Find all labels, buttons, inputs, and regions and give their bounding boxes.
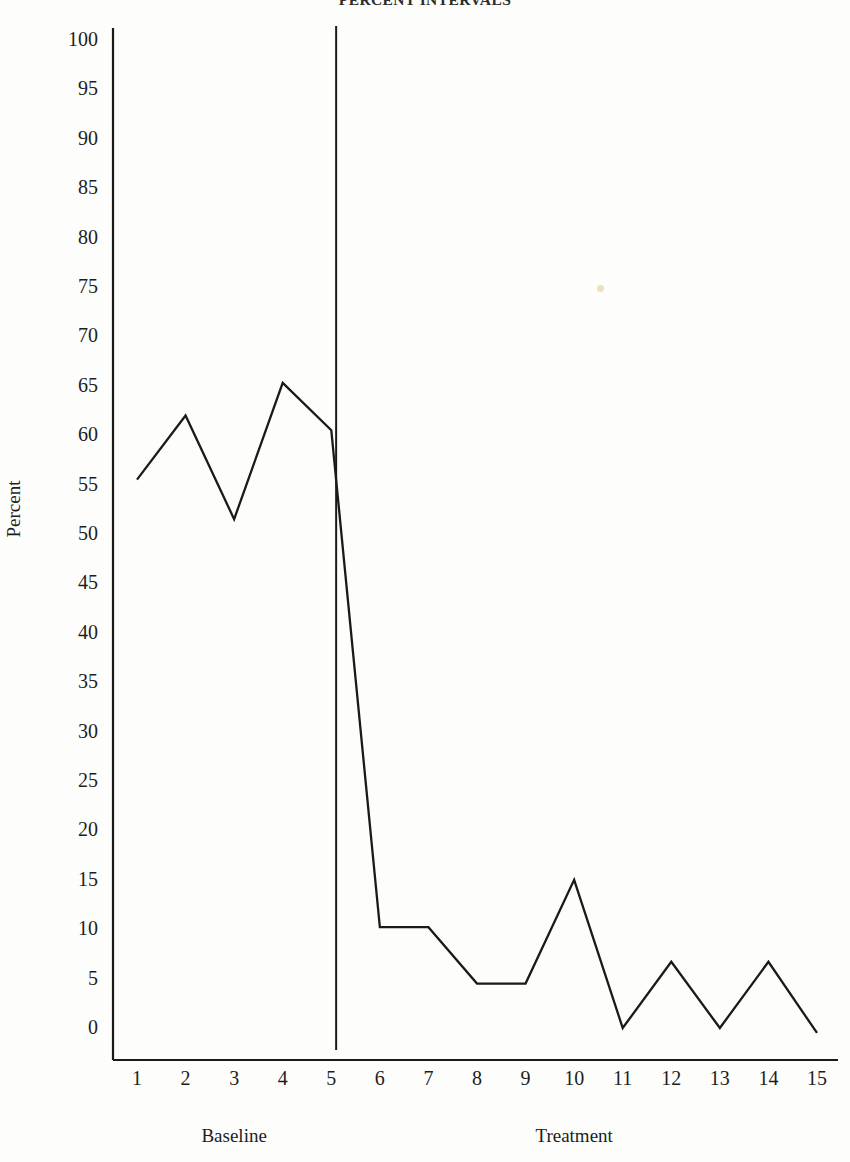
data-series-line (137, 383, 817, 1033)
plot-area (0, 0, 850, 1162)
chart-figure: PERCENT INTERVALS Percent 05101520253035… (0, 0, 850, 1162)
